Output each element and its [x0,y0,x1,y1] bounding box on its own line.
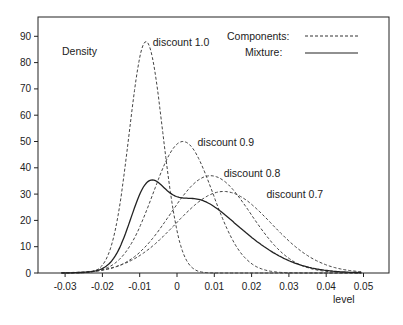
curve-annotation: discount 0.8 [224,167,281,179]
legend-mixture-label: Mixture: [245,46,282,58]
x-axis: -0.03-0.02-0.0100.010.020.030.040.05 [54,273,374,292]
y-tick-label: 0 [25,268,31,279]
y-tick-label: 70 [20,83,32,94]
legend: Components: Mixture: [227,30,358,58]
curve-annotation: discount 0.7 [267,188,324,200]
x-tick-label: 0.02 [242,281,262,292]
density-chart: 0102030405060708090 -0.03-0.02-0.0100.01… [0,0,403,325]
legend-components-label: Components: [227,30,289,42]
x-tick-label: 0.04 [316,281,336,292]
x-tick-label: -0.03 [54,281,77,292]
y-tick-label: 50 [20,136,32,147]
x-axis-label: level [333,293,355,305]
y-tick-label: 10 [20,241,32,252]
x-tick-label: -0.01 [128,281,151,292]
curves [61,42,361,273]
component-curve [61,142,361,274]
x-tick-label: 0.03 [279,281,299,292]
x-tick-label: 0 [174,281,180,292]
y-tick-label: 20 [20,215,32,226]
annotations: discount 1.0discount 0.9discount 0.8disc… [153,36,324,201]
y-tick-label: 60 [20,110,32,121]
curve-annotation: discount 1.0 [153,36,210,48]
y-tick-label: 40 [20,162,32,173]
y-axis-label: Density [62,45,98,57]
x-tick-label: 0.01 [205,281,225,292]
y-tick-label: 80 [20,57,32,68]
x-tick-label: -0.02 [91,281,114,292]
y-tick-label: 90 [20,31,32,42]
y-axis: 0102030405060708090 [20,31,38,279]
x-tick-label: 0.05 [354,281,374,292]
component-curve [61,192,361,273]
y-tick-label: 30 [20,189,32,200]
component-curve [61,42,361,273]
curve-annotation: discount 0.9 [198,136,255,148]
